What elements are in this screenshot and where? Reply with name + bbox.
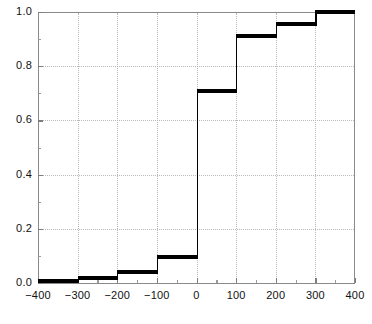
step-tread xyxy=(38,279,78,283)
step-tread xyxy=(117,270,157,274)
x-tick-minor xyxy=(137,280,138,283)
step-riser xyxy=(157,255,158,274)
step-riser xyxy=(315,10,316,26)
y-tick-label: 0.0 xyxy=(0,276,32,288)
x-tick-major xyxy=(157,278,158,283)
step-riser xyxy=(117,270,118,280)
x-tick-major xyxy=(355,278,356,283)
x-tick-minor xyxy=(97,280,98,283)
step-tread xyxy=(315,10,355,14)
chart-root: −400−300−200−1000100200300400 0.00.20.40… xyxy=(0,0,372,324)
step-riser xyxy=(236,34,237,92)
y-tick-label: 1.0 xyxy=(0,5,32,17)
axis-bottom-spine xyxy=(38,283,355,284)
step-tread xyxy=(276,22,316,26)
step-tread xyxy=(78,276,118,280)
y-tick-label: 0.6 xyxy=(0,113,32,125)
gridline-vertical xyxy=(117,13,118,283)
x-tick-minor xyxy=(256,280,257,283)
y-tick-minor xyxy=(38,39,41,40)
step-tread xyxy=(157,255,197,259)
step-tread xyxy=(197,89,237,93)
gridline-vertical xyxy=(276,13,277,283)
y-tick-major xyxy=(38,120,43,121)
x-tick-major xyxy=(276,278,277,283)
x-tick-major xyxy=(236,278,237,283)
x-tick-major xyxy=(197,278,198,283)
y-tick-minor xyxy=(38,148,41,149)
step-riser xyxy=(197,89,198,260)
y-tick-label: 0.4 xyxy=(0,168,32,180)
step-riser xyxy=(276,22,277,38)
gridline-vertical xyxy=(157,13,158,283)
y-tick-major xyxy=(38,283,43,284)
x-tick-minor xyxy=(335,280,336,283)
x-tick-minor xyxy=(177,280,178,283)
y-tick-label: 0.2 xyxy=(0,222,32,234)
y-tick-minor xyxy=(38,256,41,257)
step-tread xyxy=(236,34,276,38)
x-tick-label: 400 xyxy=(332,289,372,301)
y-tick-label: 0.8 xyxy=(0,59,32,71)
y-tick-minor xyxy=(38,93,41,94)
gridline-horizontal xyxy=(39,66,354,67)
y-tick-minor xyxy=(38,202,41,203)
gridline-vertical xyxy=(78,13,79,283)
gridline-vertical xyxy=(315,13,316,283)
x-tick-minor xyxy=(216,280,217,283)
y-tick-major xyxy=(38,12,43,13)
step-riser xyxy=(78,276,79,283)
y-tick-major xyxy=(38,66,43,67)
x-tick-minor xyxy=(296,280,297,283)
y-tick-major xyxy=(38,175,43,176)
axis-right-spine xyxy=(354,12,355,284)
x-tick-major xyxy=(315,278,316,283)
y-tick-major xyxy=(38,229,43,230)
